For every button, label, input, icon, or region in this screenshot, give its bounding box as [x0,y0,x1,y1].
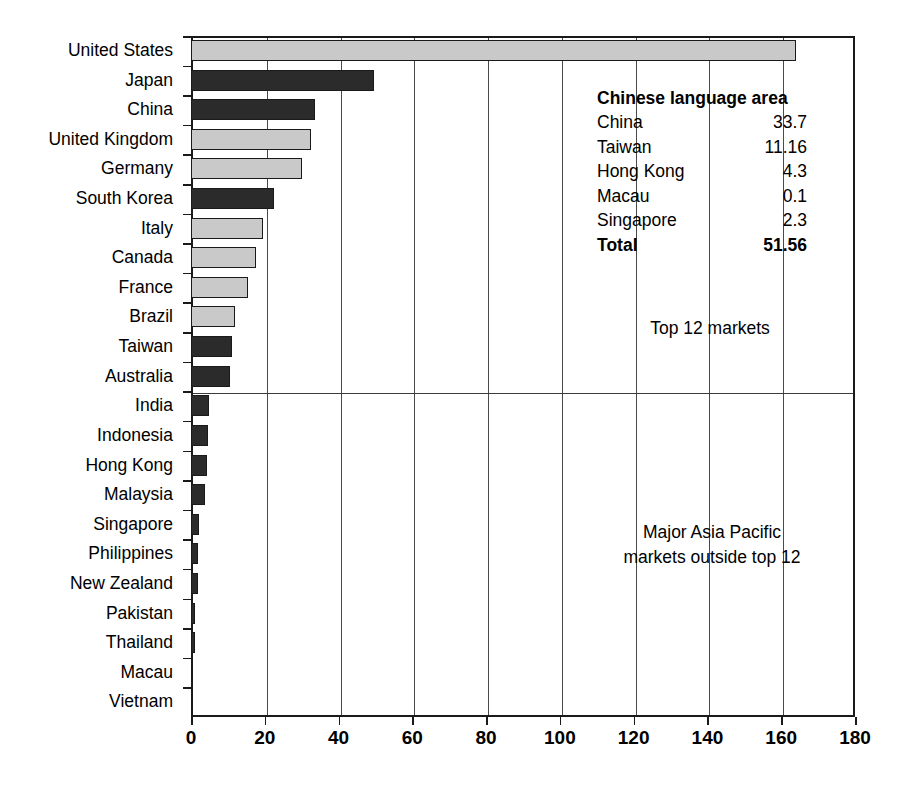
y-axis-tick [183,302,191,304]
y-axis-tick [183,332,191,334]
y-axis-tick [183,243,191,245]
bar [191,632,195,653]
y-axis-tick [183,362,191,364]
y-axis-tick [183,569,191,571]
y-axis-tick [183,95,191,97]
y-axis-tick [183,687,191,689]
x-axis-tick [707,717,709,725]
y-axis-tick [183,273,191,275]
y-axis-label: Brazil [129,302,173,332]
y-axis-label: United Kingdom [48,125,173,155]
y-axis-label: Philippines [88,539,173,569]
y-axis-tick [183,510,191,512]
inset-total-value: 51.56 [763,233,807,258]
y-axis-tick [183,214,191,216]
y-axis-label: Vietnam [109,687,173,717]
y-axis-label: Thailand [106,628,173,658]
annotation-major-asia-pacific: Major Asia Pacific markets outside top 1… [552,520,872,570]
y-axis-label: Macau [120,658,173,688]
y-axis-label: France [119,273,173,303]
x-axis-tick-label: 140 [677,727,737,749]
inset-total-label: Total [597,233,638,258]
y-axis-tick [183,628,191,630]
x-axis-tick-label: 120 [604,727,664,749]
bar [191,691,193,712]
bar-chart: United StatesJapanChinaUnited KingdomGer… [0,0,902,791]
x-axis-tick [855,717,857,725]
y-axis-tick [183,599,191,601]
bar-row [191,273,855,303]
y-axis-label: Taiwan [119,332,173,362]
inset-row-value: 4.3 [783,159,807,184]
bar [191,306,235,327]
bar [191,425,208,446]
y-axis-label: Hong Kong [85,451,173,481]
inset-row-label: Macau [597,184,650,209]
bar [191,573,198,594]
inset-row-label: Singapore [597,208,677,233]
annotation-top-12-markets: Top 12 markets [560,316,860,341]
y-axis-label: South Korea [76,184,173,214]
inset-row-label: China [597,110,643,135]
x-axis-tick-label: 160 [751,727,811,749]
bar [191,662,193,683]
y-axis-label: Australia [105,362,173,392]
inset-row-label: Taiwan [597,135,651,160]
inset-table-rows: China33.7Taiwan11.16Hong Kong4.3Macau0.1… [597,110,807,233]
x-axis-tick [265,717,267,725]
y-axis-label: India [135,391,173,421]
bar-row [191,36,855,66]
y-axis-labels: United StatesJapanChinaUnited KingdomGer… [0,36,183,717]
x-axis-tick [191,717,193,725]
bar [191,70,374,91]
y-axis-tick [183,421,191,423]
y-axis-tick [183,154,191,156]
bar [191,129,311,150]
y-axis-label: Italy [141,214,173,244]
bar [191,484,205,505]
x-axis-tick [412,717,414,725]
y-axis-label: Japan [125,66,173,96]
y-axis-tick [183,125,191,127]
inset-row-label: Hong Kong [597,159,685,184]
x-axis-tick-label: 80 [456,727,516,749]
inset-table-row: China33.7 [597,110,807,135]
bar [191,455,207,476]
y-axis-label: Indonesia [97,421,173,451]
y-axis-tick [183,451,191,453]
bar [191,514,199,535]
bar [191,336,232,357]
inset-table-row: Hong Kong4.3 [597,159,807,184]
bar [191,247,256,268]
y-axis-tick [183,391,191,393]
y-axis-tick [183,36,191,38]
bar [191,158,302,179]
bar-row [191,599,855,629]
bar [191,188,274,209]
bar [191,603,195,624]
x-axis-tick-label: 100 [530,727,590,749]
inset-table-row: Singapore2.3 [597,208,807,233]
y-axis-label: United States [68,36,173,66]
bar [191,40,796,61]
bar-row [191,687,855,717]
bar-row [191,421,855,451]
bar [191,99,315,120]
y-axis-tick [183,658,191,660]
inset-table-title: Chinese language area [597,86,807,110]
inset-row-value: 0.1 [783,184,807,209]
bar [191,277,248,298]
x-axis-tick-label: 40 [309,727,369,749]
x-axis-tick-label: 180 [825,727,885,749]
bar [191,218,263,239]
x-axis-tick-label: 60 [382,727,442,749]
inset-table-total-row: Total 51.56 [597,233,807,258]
y-axis-label: Singapore [93,510,173,540]
y-axis-label: China [127,95,173,125]
y-axis-label: Malaysia [104,480,173,510]
bar [191,395,209,416]
inset-row-value: 33.7 [773,110,807,135]
bar-row [191,362,855,392]
x-axis-tick [560,717,562,725]
x-axis-tick-label: 20 [235,727,295,749]
